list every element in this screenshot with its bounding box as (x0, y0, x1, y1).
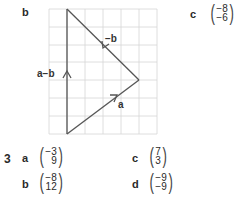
left-paren: ( (39, 172, 43, 192)
q3-d-label: d (132, 178, 139, 190)
q3-d-vector: ( −9−9 ) (148, 172, 174, 192)
left-paren: ( (210, 3, 214, 23)
vector-minus-b-label: −b (105, 33, 117, 44)
vector-bottom: 3 (155, 156, 161, 165)
part-c-vector: ( −8−6 ) (209, 3, 235, 23)
q3-b-label: b (22, 178, 29, 190)
left-paren: ( (149, 146, 153, 166)
vector-triangle-diagram: a −b a−b (0, 0, 237, 140)
vector-bottom: 9 (51, 156, 57, 165)
left-paren: ( (39, 146, 43, 166)
right-paren: ) (58, 146, 62, 166)
vector-a-label: a (118, 99, 124, 110)
q3-b-vector: ( −812 ) (38, 172, 64, 192)
q3-a-vector: ( −39 ) (38, 146, 64, 166)
right-paren: ) (58, 172, 62, 192)
right-paren: ) (168, 172, 172, 192)
right-paren: ) (162, 146, 166, 166)
grid (49, 9, 157, 134)
left-paren: ( (149, 172, 153, 192)
vector-bottom: −6 (216, 13, 227, 22)
question-number: 3 (4, 152, 11, 166)
vector-bottom: −9 (155, 182, 166, 191)
right-paren: ) (229, 3, 233, 23)
q3-a-label: a (22, 152, 28, 164)
vector-bottom: 12 (46, 182, 57, 191)
q3-c-vector: ( 73 ) (148, 146, 168, 166)
part-c-label: c (190, 8, 196, 20)
vector-a-minus-b-label: a−b (37, 68, 55, 79)
q3-c-label: c (132, 152, 138, 164)
